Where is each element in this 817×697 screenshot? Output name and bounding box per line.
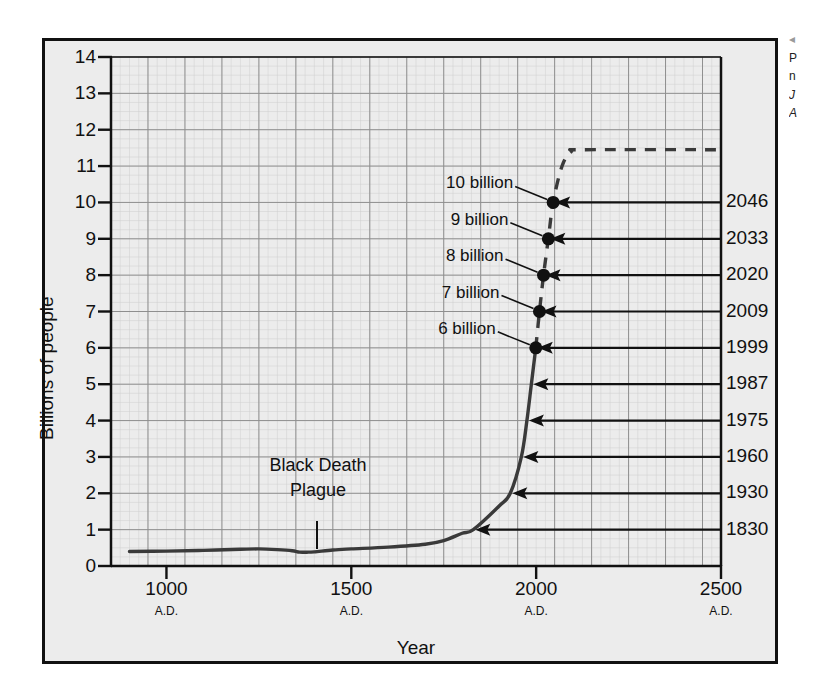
x-tick-era-label: A.D.: [301, 604, 401, 618]
milestone-year-label: 1975: [726, 410, 768, 429]
milestone-population-label: 8 billion: [329, 247, 504, 264]
y-tick-label: 11: [62, 156, 96, 175]
y-tick-label: 6: [62, 338, 96, 357]
x-tick-label: 1500: [301, 578, 401, 600]
y-tick-label: 0: [62, 556, 96, 575]
milestone-year-label: 1999: [726, 337, 768, 356]
population-growth-figure: 01234567891011121314 Billions of people …: [0, 0, 817, 697]
x-tick-label: 1000: [116, 578, 216, 600]
milestone-population-label: 6 billion: [321, 320, 496, 337]
milestone-dot: [533, 305, 546, 318]
y-tick-label: 10: [62, 192, 96, 211]
x-tick-era-label: A.D.: [671, 604, 771, 618]
milestone-leader-line: [506, 259, 538, 272]
milestone-population-label: 9 billion: [333, 211, 508, 228]
milestone-year-label: 2009: [726, 301, 768, 320]
y-tick-label: 14: [62, 47, 96, 66]
milestone-year-label: 1930: [726, 482, 768, 501]
milestone-population-label: 7 billion: [324, 284, 499, 301]
milestone-dot: [547, 196, 560, 209]
milestone-leader-line: [498, 332, 530, 345]
caption-line-4: A: [789, 104, 817, 123]
y-tick-label: 2: [62, 483, 96, 502]
y-tick-label: 3: [62, 447, 96, 466]
milestone-population-label: 10 billion: [338, 174, 513, 191]
x-tick-era-label: A.D.: [486, 604, 586, 618]
milestone-year-label: 1987: [726, 373, 768, 392]
milestone-dot: [537, 269, 550, 282]
milestone-year-label: 1830: [726, 519, 768, 538]
x-axis-title: Year: [316, 637, 516, 659]
annotation-black-death-line2: Plague: [218, 480, 418, 501]
milestone-leader-line: [510, 223, 542, 236]
y-tick-label: 7: [62, 302, 96, 321]
x-tick-label: 2000: [486, 578, 586, 600]
y-tick-label: 12: [62, 120, 96, 139]
caption-line-2: n: [789, 67, 817, 86]
annotation-black-death-line1: Black Death: [218, 455, 418, 476]
caption-marker: ◂: [789, 30, 817, 49]
caption-line-3: J: [789, 86, 817, 105]
y-tick-label: 4: [62, 411, 96, 430]
x-tick-label: 2500: [671, 578, 771, 600]
caption-line-1: P: [789, 49, 817, 68]
y-axis-title: Billions of people: [36, 296, 58, 440]
milestone-dot: [529, 341, 542, 354]
figure-caption: ◂ P n J A: [789, 30, 817, 123]
milestone-year-label: 1960: [726, 446, 768, 465]
milestone-year-label: 2020: [726, 264, 768, 283]
milestone-year-label: 2033: [726, 228, 768, 247]
y-tick-label: 13: [62, 83, 96, 102]
y-tick-label: 8: [62, 265, 96, 284]
y-tick-label: 5: [62, 374, 96, 393]
y-tick-label: 1: [62, 520, 96, 539]
milestone-dot: [542, 232, 555, 245]
y-tick-label: 9: [62, 229, 96, 248]
milestone-year-label: 2046: [726, 191, 768, 210]
x-tick-era-label: A.D.: [116, 604, 216, 618]
milestone-leader-line: [515, 186, 547, 199]
